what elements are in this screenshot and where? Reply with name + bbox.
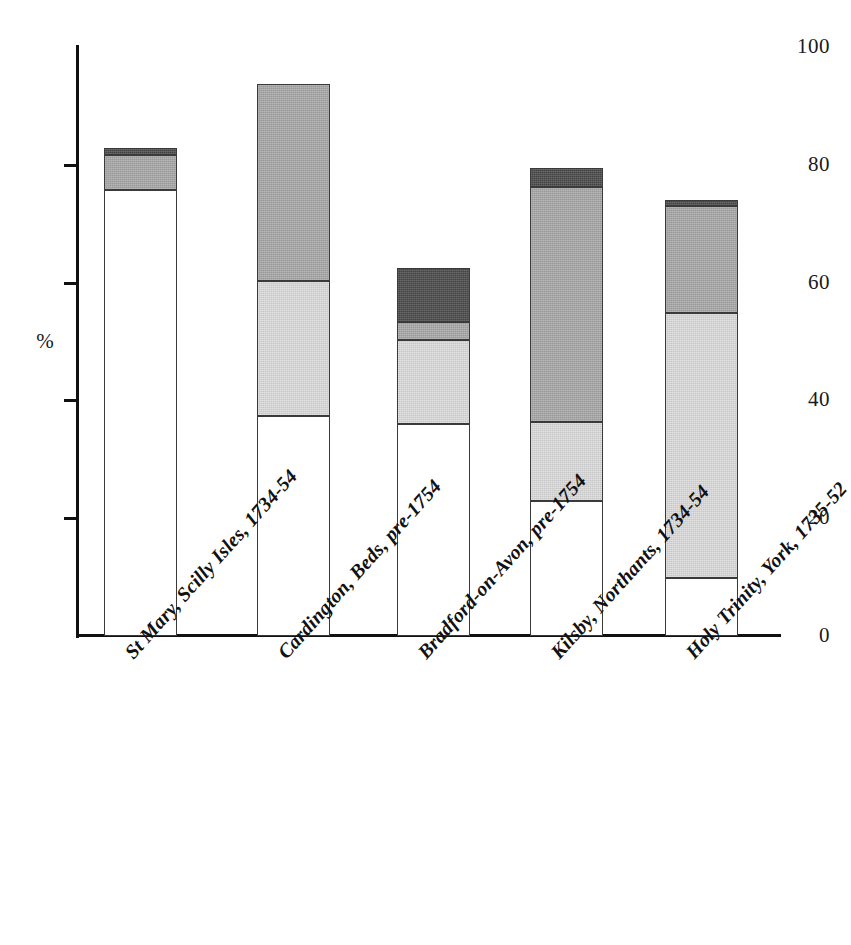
bar-4[interactable] bbox=[530, 47, 603, 636]
y-tick-label-0: 0 bbox=[784, 625, 830, 646]
y-tick-label-60: 60 bbox=[784, 272, 830, 293]
y-tick-mark-60 bbox=[64, 282, 79, 285]
bar-5-dark-segment[interactable] bbox=[665, 200, 738, 206]
bar-2-medium-segment[interactable] bbox=[257, 84, 330, 281]
bar-3[interactable] bbox=[397, 47, 470, 636]
y-tick-label-100: 100 bbox=[784, 36, 830, 57]
y-tick-mark-80 bbox=[64, 164, 79, 167]
y-tick-label-80: 80 bbox=[784, 154, 830, 175]
bar-3-light-segment[interactable] bbox=[397, 340, 470, 424]
bar-5-medium-segment[interactable] bbox=[665, 206, 738, 313]
bar-2-light-segment[interactable] bbox=[257, 281, 330, 416]
bar-1-dark-segment[interactable] bbox=[104, 148, 177, 155]
bar-2[interactable] bbox=[257, 47, 330, 636]
bar-1[interactable] bbox=[104, 47, 177, 636]
y-axis-unit-label: % bbox=[28, 331, 62, 352]
y-tick-mark-20 bbox=[64, 517, 79, 520]
plot-area bbox=[78, 47, 778, 636]
bar-4-medium-segment[interactable] bbox=[530, 187, 603, 422]
bar-3-dark-segment[interactable] bbox=[397, 268, 470, 322]
bar-5-light-segment[interactable] bbox=[665, 313, 738, 578]
bar-4-dark-segment[interactable] bbox=[530, 168, 603, 187]
y-tick-mark-40 bbox=[64, 399, 79, 402]
bar-3-medium-segment[interactable] bbox=[397, 322, 470, 340]
bar-5[interactable] bbox=[665, 47, 738, 636]
bar-1-white-segment[interactable] bbox=[104, 190, 177, 636]
bar-1-medium-segment[interactable] bbox=[104, 155, 177, 190]
y-tick-label-40: 40 bbox=[784, 389, 830, 410]
